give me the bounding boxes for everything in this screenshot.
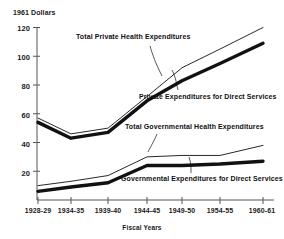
chart-series-lines (38, 28, 263, 192)
annotation-leader-lines (148, 46, 191, 173)
series-line-0 (38, 28, 263, 134)
series-line-3 (38, 161, 263, 191)
chart-plot-area (0, 0, 284, 239)
series-line-1 (38, 43, 263, 138)
expenditures-line-chart: 1961 Dollars 120 100 80 60 40 20 1928-29… (0, 0, 284, 239)
